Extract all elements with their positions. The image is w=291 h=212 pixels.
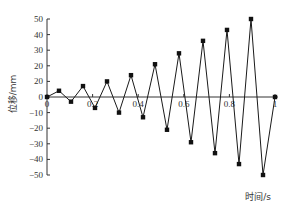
data-point-marker: [45, 95, 49, 99]
data-point-marker: [81, 84, 85, 88]
y-tick-label: −30: [29, 139, 44, 149]
data-point-marker: [213, 151, 217, 155]
y-tick-label: 50: [34, 14, 44, 24]
x-axis-title: 时间/s: [245, 191, 271, 202]
data-point-marker: [225, 28, 229, 32]
data-point-marker: [273, 95, 277, 99]
data-point-marker: [249, 17, 253, 21]
y-tick-label: 20: [34, 76, 44, 86]
y-tick-label: −20: [29, 123, 44, 133]
data-point-marker: [177, 51, 181, 55]
axes: [47, 19, 278, 175]
y-tick-label: 40: [34, 30, 44, 40]
y-tick-label: 20: [34, 61, 44, 71]
y-axis-title: 位移/mm: [7, 75, 18, 114]
data-point-marker: [141, 115, 145, 119]
y-tick-label: −50: [29, 170, 44, 180]
data-point-marker: [261, 173, 265, 177]
y-tick-label: 0: [39, 92, 44, 102]
data-point-marker: [93, 106, 97, 110]
data-point-marker: [153, 62, 157, 66]
chart: 50403020200−10−20−30−40−50 00.20.40.60.8…: [0, 0, 291, 212]
y-tick-label: 30: [34, 45, 44, 55]
data-point-marker: [201, 39, 205, 43]
x-tick-label: 0: [45, 99, 50, 109]
data-point-marker: [189, 140, 193, 144]
data-point-marker: [237, 162, 241, 166]
data-point-marker: [165, 128, 169, 132]
y-tick-label: −40: [29, 154, 44, 164]
data-point-marker: [57, 89, 61, 93]
data-point-marker: [117, 110, 121, 114]
data-point-marker: [129, 73, 133, 77]
data-point-marker: [69, 99, 73, 103]
y-tick-label: −10: [29, 108, 44, 118]
data-point-marker: [105, 79, 109, 83]
x-tick-label: 0.6: [178, 99, 190, 109]
